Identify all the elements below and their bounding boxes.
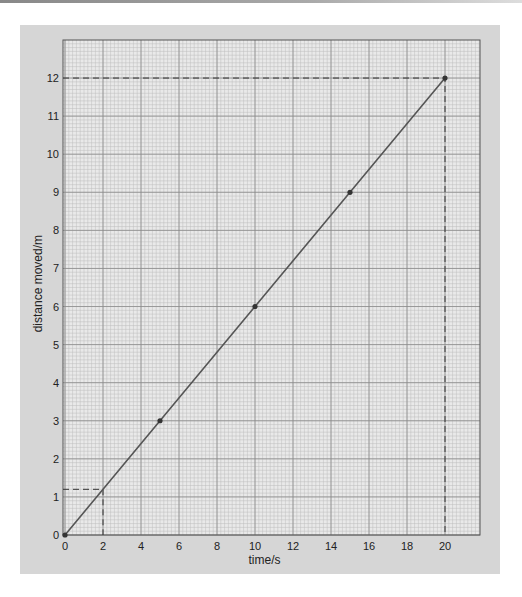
y-tick-label: 10: [47, 148, 59, 160]
x-tick-label: 10: [249, 540, 261, 552]
x-tick-label: 20: [439, 540, 451, 552]
y-tick-label: 9: [53, 186, 59, 198]
y-tick-label: 11: [48, 110, 59, 122]
y-tick-label: 3: [53, 415, 59, 427]
data-point: [157, 418, 162, 423]
data-point: [442, 75, 447, 80]
y-tick-label: 8: [53, 224, 59, 236]
y-tick-label: 1: [53, 491, 59, 503]
y-tick-label: 5: [53, 339, 59, 351]
x-tick-label: 4: [138, 540, 144, 552]
y-tick-label: 12: [47, 72, 59, 84]
x-tick-label: 2: [100, 540, 106, 552]
data-point: [252, 304, 257, 309]
x-tick-label: 0: [62, 540, 68, 552]
line-chart: 024681012141618200123456789101112time/sd…: [0, 0, 522, 597]
x-tick-label: 8: [214, 540, 220, 552]
x-tick-label: 16: [363, 540, 375, 552]
x-tick-label: 14: [325, 540, 337, 552]
x-tick-label: 12: [287, 540, 299, 552]
y-tick-label: 4: [53, 377, 59, 389]
data-point: [347, 190, 352, 195]
x-tick-label: 18: [401, 540, 413, 552]
data-point: [62, 532, 67, 537]
y-tick-label: 2: [53, 453, 59, 465]
y-tick-label: 6: [53, 301, 59, 313]
y-tick-label: 7: [53, 262, 59, 274]
x-tick-label: 6: [176, 540, 182, 552]
y-tick-label: 0: [53, 529, 59, 541]
y-axis-label: distance moved/m: [31, 235, 45, 332]
x-axis-label: time/s: [248, 553, 280, 567]
